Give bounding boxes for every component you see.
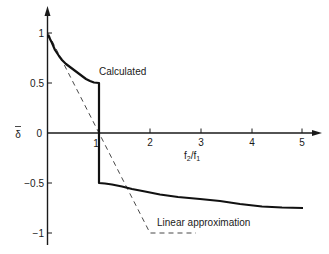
x-axis-arrow-icon [312, 130, 322, 136]
x-tick-label: 4 [249, 137, 255, 148]
calculated-curve [48, 35, 303, 208]
chart: 1 0.5 0 −0.5 −1 δ 1 2 3 4 5 f2/f1 Calcul… [0, 0, 329, 254]
x-tick-label: 3 [198, 137, 204, 148]
y-tick-label: −0.5 [24, 178, 44, 189]
calculated-label: Calculated [99, 66, 146, 77]
y-tick-label: 1 [38, 28, 44, 39]
y-tick-label: 0.5 [30, 78, 44, 89]
x-axis-title: f2/f1 [184, 150, 200, 162]
y-axis: 1 0.5 0 −0.5 −1 δ [15, 6, 52, 245]
y-axis-title: δ [15, 127, 21, 141]
x-axis: 1 2 3 4 5 f2/f1 [48, 129, 323, 163]
y-axis-arrow-icon [45, 6, 51, 16]
x-tick-label: 5 [299, 137, 305, 148]
x-tick-label: 2 [147, 137, 153, 148]
y-tick-label: 0 [36, 128, 42, 139]
linear-approximation-label: Linear approximation [157, 217, 250, 228]
y-tick-label: −1 [33, 228, 45, 239]
svg-text:δ: δ [15, 129, 21, 140]
